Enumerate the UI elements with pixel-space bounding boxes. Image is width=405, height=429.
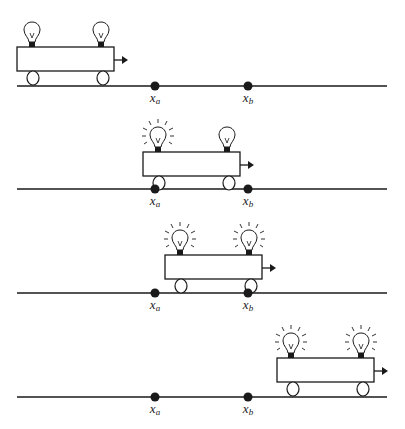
label-xa: xa xyxy=(150,90,160,106)
bulb-front-icon xyxy=(93,22,109,47)
bulb-front-icon xyxy=(219,127,235,152)
cart xyxy=(143,152,254,190)
label-xa: xa xyxy=(150,193,160,209)
bulb-front-lit-icon xyxy=(353,333,369,358)
panel-3 xyxy=(17,222,387,298)
panel-2 xyxy=(17,119,387,194)
bulb-rear-lit-icon xyxy=(172,230,188,255)
label-xb: xb xyxy=(243,297,253,313)
label-xb: xb xyxy=(243,193,253,209)
diagram-canvas xyxy=(0,0,405,429)
panel-1 xyxy=(17,22,387,91)
label-xb: xb xyxy=(243,401,253,417)
label-xa: xa xyxy=(150,297,160,313)
label-xa: xa xyxy=(150,401,160,417)
panel-4 xyxy=(17,325,388,402)
label-xb: xb xyxy=(243,90,253,106)
bulb-rear-lit-icon xyxy=(283,333,299,358)
cart xyxy=(165,255,276,293)
bulb-rear-icon xyxy=(24,22,40,47)
cart xyxy=(277,358,388,396)
bulb-front-lit-icon xyxy=(241,230,257,255)
cart xyxy=(17,47,128,85)
bulb-rear-lit-icon xyxy=(150,127,166,152)
